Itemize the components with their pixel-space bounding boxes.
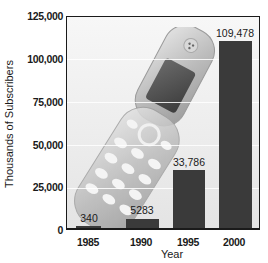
bar-label-1990: 5283 — [130, 204, 153, 216]
y-tick-25000: 25,000 — [33, 181, 63, 193]
x-tick-1990: 1990 — [130, 236, 152, 248]
bar-label-2000: 109,478 — [216, 27, 254, 39]
y-axis-label: Thousands of Subscribers — [3, 117, 15, 131]
y-axis-label-text: Thousands of Subscribers — [3, 60, 15, 188]
bar-1995 — [173, 170, 205, 228]
y-tick-100000: 100,000 — [27, 53, 63, 65]
y-tick-125000: 125,000 — [27, 10, 63, 22]
y-tick-50000: 50,000 — [33, 139, 63, 151]
bar-1990 — [126, 219, 159, 228]
y-tick-75000: 75,000 — [33, 96, 63, 108]
bar-label-1985: 340 — [80, 212, 98, 224]
x-tick-1985: 1985 — [77, 236, 99, 248]
x-tick-1995: 1995 — [177, 236, 199, 248]
bar-chart: Thousands of Subscribers 0 25,000 50,000… — [0, 0, 268, 263]
bar-label-1995: 33,786 — [173, 156, 205, 168]
x-tick-2000: 2000 — [223, 236, 245, 248]
x-axis-label: Year — [161, 248, 183, 260]
bar-1985 — [76, 226, 101, 228]
y-tick-0: 0 — [57, 224, 63, 236]
plot-area: 340 5283 33,786 109,478 — [66, 16, 260, 230]
bar-2000 — [219, 41, 252, 228]
